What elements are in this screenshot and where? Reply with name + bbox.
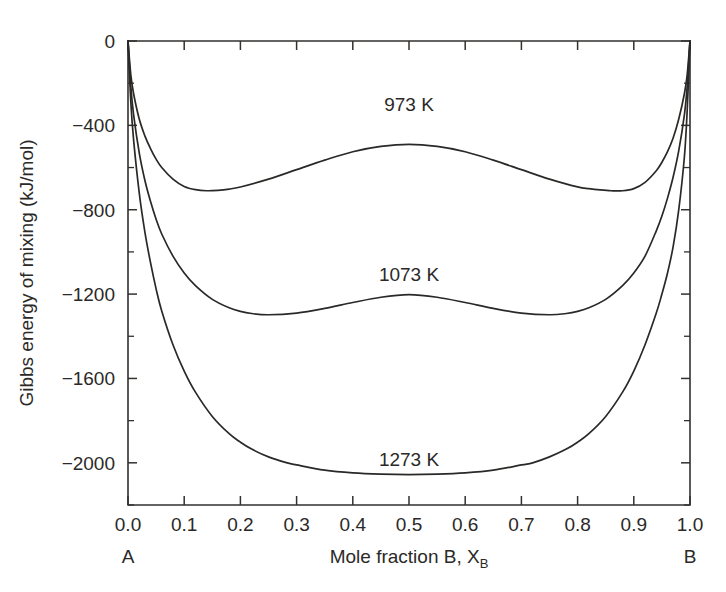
y-tick-label: −2000 xyxy=(62,453,115,474)
y-tick-label: −400 xyxy=(72,115,115,136)
chart-figure: 0−400−800−1200−1600−2000 0.00.10.20.30.4… xyxy=(0,0,726,592)
x-tick-label: 0.7 xyxy=(508,514,534,535)
y-axis-title: Gibbs energy of mixing (kJ/mol) xyxy=(16,139,37,406)
series-label-1073-k: 1073 K xyxy=(379,264,440,285)
series-label-1273-k: 1273 K xyxy=(379,449,440,470)
y-tick-label: 0 xyxy=(104,31,115,52)
x-tick-label: 0.6 xyxy=(452,514,478,535)
x-tick-label: 1.0 xyxy=(677,514,703,535)
y-tick-label: −1200 xyxy=(62,284,115,305)
y-tick-label: −800 xyxy=(72,200,115,221)
x-tick-label: 0.0 xyxy=(115,514,141,535)
x-tick-label: 0.1 xyxy=(171,514,197,535)
x-tick-label: 0.5 xyxy=(396,514,422,535)
x-tick-label: 0.4 xyxy=(340,514,367,535)
gibbs-energy-chart: 0−400−800−1200−1600−2000 0.00.10.20.30.4… xyxy=(0,0,726,592)
x-tick-label: 0.2 xyxy=(227,514,253,535)
x-tick-label: 0.3 xyxy=(283,514,309,535)
x-endpoint-a-label: A xyxy=(122,546,135,567)
x-tick-label: 0.9 xyxy=(621,514,647,535)
x-tick-label: 0.8 xyxy=(564,514,590,535)
x-endpoint-b-label: B xyxy=(684,546,697,567)
y-tick-label: −1600 xyxy=(62,368,115,389)
series-label-973-k: 973 K xyxy=(384,94,434,115)
